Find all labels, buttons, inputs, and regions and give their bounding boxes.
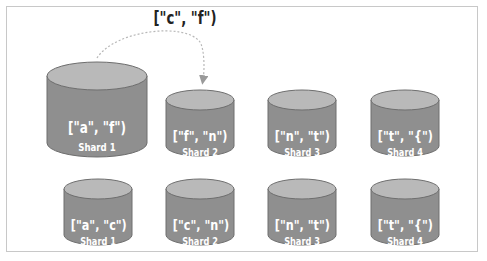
shard-range: ["c", "n") xyxy=(173,217,227,233)
shard-after-2: ["c", "n") Shard 2 xyxy=(166,179,234,247)
shard-before-1: ["a", "f") Shard 1 xyxy=(47,62,147,158)
shard-name: Shard 3 xyxy=(275,235,328,247)
shard-range: ["a", "f") xyxy=(57,119,137,137)
shard-before-3: ["n", "t") Shard 3 xyxy=(268,90,336,158)
shard-name: Shard 2 xyxy=(173,146,226,158)
shard-after-4: ["t", "{") Shard 4 xyxy=(371,179,439,247)
shard-name: Shard 4 xyxy=(378,146,431,158)
shard-after-3: ["n", "t") Shard 3 xyxy=(268,179,336,247)
shard-before-2: ["f", "n") Shard 2 xyxy=(166,90,234,158)
shard-range: ["n", "t") xyxy=(275,217,329,233)
shard-name: Shard 2 xyxy=(173,235,226,247)
shard-name: Shard 4 xyxy=(378,235,431,247)
shard-name: Shard 1 xyxy=(58,141,136,154)
shard-before-4: ["t", "{") Shard 4 xyxy=(371,90,439,158)
shard-range: ["a", "c") xyxy=(71,217,125,233)
shard-range: ["t", "{") xyxy=(378,217,432,233)
shard-name: Shard 1 xyxy=(71,235,124,247)
shard-range: ["t", "{") xyxy=(378,128,432,144)
shard-after-1: ["a", "c") Shard 1 xyxy=(64,179,132,247)
shard-range: ["n", "t") xyxy=(275,128,329,144)
shard-name: Shard 3 xyxy=(275,146,328,158)
moved-range-label: ["c", "f") xyxy=(142,8,228,28)
shard-range: ["f", "n") xyxy=(173,128,227,144)
